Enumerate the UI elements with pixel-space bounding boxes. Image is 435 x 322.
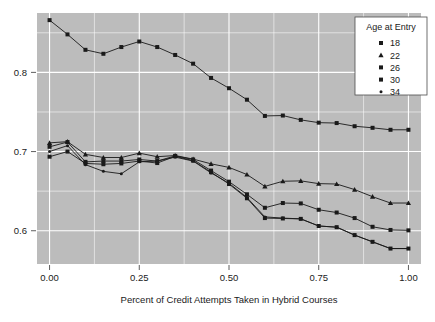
data-point-marker [119, 45, 123, 49]
data-point-marker [388, 128, 392, 132]
data-point-marker [299, 201, 303, 205]
data-point-marker [299, 118, 303, 122]
x-tick-label: 0.50 [220, 272, 239, 283]
data-point-marker [263, 114, 267, 118]
data-point-marker [156, 160, 159, 163]
data-point-marker [406, 128, 410, 132]
line-chart-svg: 0.000.250.500.751.00 0.60.70.8 Percent o… [0, 0, 435, 322]
data-point-marker [371, 225, 375, 229]
data-point-marker [389, 247, 392, 250]
data-point-marker [379, 78, 383, 82]
data-point-marker [388, 228, 392, 232]
data-point-marker [379, 65, 383, 69]
data-point-marker [227, 86, 231, 90]
data-point-marker [101, 52, 105, 56]
data-point-marker [84, 163, 87, 166]
data-point-marker [210, 171, 213, 174]
data-point-marker [335, 226, 338, 229]
y-tick-label: 0.7 [14, 146, 27, 157]
legend-entry-label: 18 [390, 38, 400, 48]
data-point-marker [353, 216, 357, 220]
data-point-marker [371, 240, 374, 243]
data-point-marker [353, 234, 356, 237]
data-point-marker [48, 150, 51, 153]
x-tick-label: 0.75 [309, 272, 328, 283]
y-tick-label: 0.8 [14, 67, 27, 78]
data-point-marker [245, 98, 249, 102]
data-point-marker [66, 144, 69, 147]
y-tick-label: 0.6 [14, 225, 27, 236]
data-point-marker [263, 206, 267, 210]
data-point-marker [119, 161, 123, 165]
data-point-marker [317, 224, 320, 227]
data-point-marker [353, 124, 357, 128]
data-point-marker [379, 41, 383, 45]
data-point-marker [317, 208, 321, 212]
data-point-marker [299, 217, 302, 220]
data-point-marker [102, 170, 105, 173]
data-point-marker [192, 160, 195, 163]
data-point-marker [317, 121, 321, 125]
data-point-marker [245, 192, 249, 196]
data-point-marker [138, 160, 141, 163]
chart-figure: 0.000.250.500.751.00 0.60.70.8 Percent o… [0, 0, 435, 322]
data-point-marker [66, 140, 70, 144]
data-point-marker [174, 156, 177, 159]
data-point-marker [263, 215, 266, 218]
data-point-marker [407, 247, 410, 250]
data-point-marker [137, 40, 141, 44]
data-point-marker [48, 18, 52, 22]
data-point-marker [335, 121, 339, 125]
data-point-marker [120, 172, 123, 175]
data-point-marker [281, 217, 284, 220]
data-point-marker [66, 32, 70, 36]
data-point-marker [228, 182, 231, 185]
data-point-marker [191, 62, 195, 66]
legend-title: Age at Entry [366, 22, 416, 32]
data-point-marker [281, 114, 285, 118]
data-point-marker [406, 228, 410, 232]
data-point-marker [48, 145, 52, 149]
data-point-marker [155, 45, 159, 49]
data-point-marker [48, 155, 52, 159]
x-axis-title: Percent of Credit Attempts Taken in Hybr… [121, 294, 338, 305]
data-point-marker [66, 150, 70, 154]
x-tick-label: 0.25 [130, 272, 149, 283]
x-tick-label: 0.00 [40, 272, 59, 283]
data-point-marker [335, 211, 339, 215]
data-point-marker [101, 162, 105, 166]
data-point-marker [83, 48, 87, 52]
legend-entry-label: 34 [390, 87, 400, 97]
data-point-marker [380, 90, 383, 93]
chart-legend: Age at Entry 1822263034 [355, 17, 427, 97]
data-point-marker [371, 126, 375, 130]
legend-entry-label: 30 [390, 75, 400, 85]
legend-entry-label: 26 [390, 63, 400, 73]
data-point-marker [209, 76, 213, 80]
data-point-marker [281, 201, 285, 205]
data-point-marker [173, 53, 177, 57]
data-point-marker [245, 196, 248, 199]
x-tick-label: 1.00 [399, 272, 418, 283]
legend-entry-label: 22 [390, 51, 400, 61]
